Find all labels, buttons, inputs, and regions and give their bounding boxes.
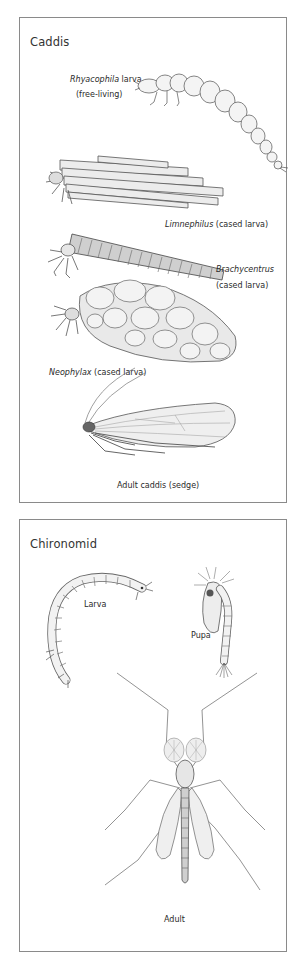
limnephilus-larva-illustration — [38, 148, 238, 213]
panel-title-chironomid: Chironomid — [30, 537, 97, 551]
chironomid-pupa-label: Pupa — [191, 632, 211, 640]
panel-title-caddis: Caddis — [30, 35, 69, 49]
brachycentrus-label: Brachycentrus — [216, 266, 274, 274]
limnephilus-label: Limnephilus (cased larva) — [165, 221, 268, 229]
neophylax-larva-illustration — [40, 276, 240, 366]
adult-caddis-illustration — [75, 363, 255, 478]
rhyacophila-label: Rhyacophila larva — [70, 76, 142, 84]
chironomid-larva-label: Larva — [84, 601, 106, 609]
rhyacophila-label-line2: (free-living) — [76, 91, 122, 99]
adult-caddis-label: Adult caddis (sedge) — [117, 482, 199, 490]
chironomid-panel: Chironomid Larva — [19, 519, 287, 952]
caddis-panel: Caddis Rhyacophila larva (free-living) — [19, 17, 287, 503]
chironomid-adult-illustration — [90, 670, 290, 910]
chironomid-pupa-illustration — [188, 561, 248, 681]
chironomid-adult-label: Adult — [164, 916, 185, 924]
